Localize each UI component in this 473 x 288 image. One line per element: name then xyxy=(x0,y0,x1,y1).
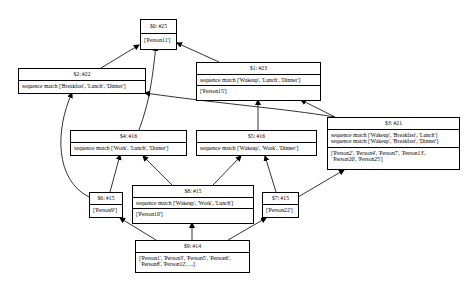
node-9-members: ['Person1', 'Person3', 'Person5', 'Perso… xyxy=(136,252,249,270)
edge-8-4 xyxy=(143,156,172,185)
node-3-rule-1: sequence match ['Wakeup', 'Breakfast', '… xyxy=(331,132,456,139)
node-3-members-line-1: ['Person2', 'Person4', 'Person7', 'Perso… xyxy=(331,150,456,157)
edge-1-0 xyxy=(177,43,219,62)
node-3-rules: sequence match ['Wakeup', 'Breakfast', '… xyxy=(328,129,459,147)
node-3-rule-2: sequence match ['Wakeup', 'Breakfast', '… xyxy=(331,138,456,145)
node-7-title: $7: #15 xyxy=(263,193,298,204)
node-9-title: $9: #14 xyxy=(136,241,249,252)
node-6: $6: #15 ['Person9'] xyxy=(89,192,123,218)
node-8: $8: #15 sequence match ['Wakeup', 'Work'… xyxy=(132,185,254,224)
node-9-members-line-2: 'Person8', 'Person12', ...] xyxy=(139,261,246,268)
node-8-title: $8: #15 xyxy=(133,186,253,197)
node-3-title: $3: #21 xyxy=(328,118,459,129)
node-4: $4: #16 sequence match ['Work', 'Lunch',… xyxy=(70,130,187,156)
node-2-rule: sequence match ['Breakfast', 'Lunch', 'D… xyxy=(19,80,145,92)
node-5: $5: #16 sequence match ['Wakeup', 'Work'… xyxy=(196,130,317,156)
node-9: $9: #14 ['Person1', 'Person3', 'Person5'… xyxy=(135,240,250,273)
node-7-members: ['Person22'] xyxy=(263,204,298,216)
node-9-members-line-1: ['Person1', 'Person3', 'Person5', 'Perso… xyxy=(139,255,246,262)
node-8-members: ['Person10'] xyxy=(133,208,253,220)
node-1-title: $1: #23 xyxy=(197,63,320,74)
lattice-diagram: $0: #25 ['Person11'] $1: #23 sequence ma… xyxy=(0,0,473,288)
node-0-title: $0: #25 xyxy=(141,20,176,33)
node-3: $3: #21 sequence match ['Wakeup', 'Break… xyxy=(327,117,460,170)
node-1-rule: sequence match ['Wakeup', 'Lunch', 'Dinn… xyxy=(197,74,320,86)
edge-2-0 xyxy=(101,45,139,68)
node-0-members: ['Person11'] xyxy=(141,33,176,47)
node-8-rule: sequence match ['Wakeup', 'Work', 'Lunch… xyxy=(133,197,253,209)
node-1: $1: #23 sequence match ['Wakeup', 'Lunch… xyxy=(196,62,321,101)
node-5-rule: sequence match ['Wakeup', 'Work', 'Dinne… xyxy=(197,142,316,154)
edge-6-4 xyxy=(110,155,120,192)
node-6-members: ['Person9'] xyxy=(90,204,122,216)
node-2: $2: #22 sequence match ['Breakfast', 'Lu… xyxy=(18,68,146,94)
node-5-title: $5: #16 xyxy=(197,131,316,142)
edge-8-5 xyxy=(213,156,241,185)
edge-7-3 xyxy=(298,170,344,197)
edge-7-5 xyxy=(265,156,276,192)
node-3-members-line-2: 'Person20', 'Person25'] xyxy=(331,156,456,163)
node-6-title: $6: #15 xyxy=(90,193,122,204)
node-0: $0: #25 ['Person11'] xyxy=(140,19,177,50)
node-4-title: $4: #16 xyxy=(71,131,186,142)
node-7: $7: #15 ['Person22'] xyxy=(262,192,299,218)
node-4-rule: sequence match ['Work', 'Lunch', 'Dinner… xyxy=(71,142,186,154)
node-2-title: $2: #22 xyxy=(19,69,145,80)
node-3-members: ['Person2', 'Person4', 'Person7', 'Perso… xyxy=(328,147,459,165)
node-1-members: ['Person15'] xyxy=(197,85,320,97)
